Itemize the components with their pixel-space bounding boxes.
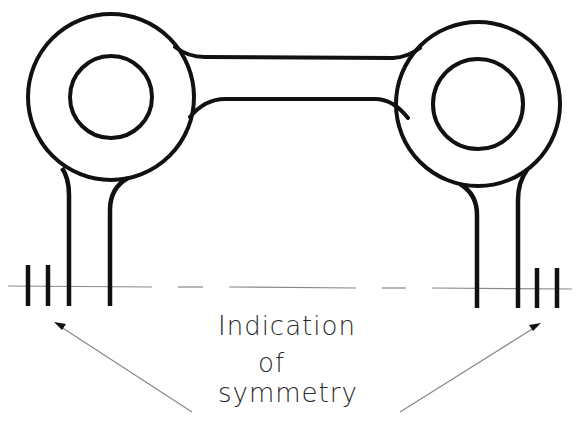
left-legs [62, 168, 128, 306]
centerline [8, 286, 572, 289]
annotation-line-2: of [258, 350, 285, 376]
right-legs [460, 170, 527, 308]
right-ring-boss [396, 22, 560, 186]
technical-drawing [0, 0, 576, 424]
right-leader-arrow [400, 323, 541, 412]
annotation-line-1: Indication [218, 313, 356, 339]
left-leader-arrow [54, 322, 192, 412]
right-symmetry-mark [537, 268, 557, 308]
annotation-line-3: symmetry [218, 380, 358, 406]
left-ring-boss [28, 14, 194, 180]
connecting-bridge [175, 47, 420, 118]
left-symmetry-mark [28, 265, 48, 306]
